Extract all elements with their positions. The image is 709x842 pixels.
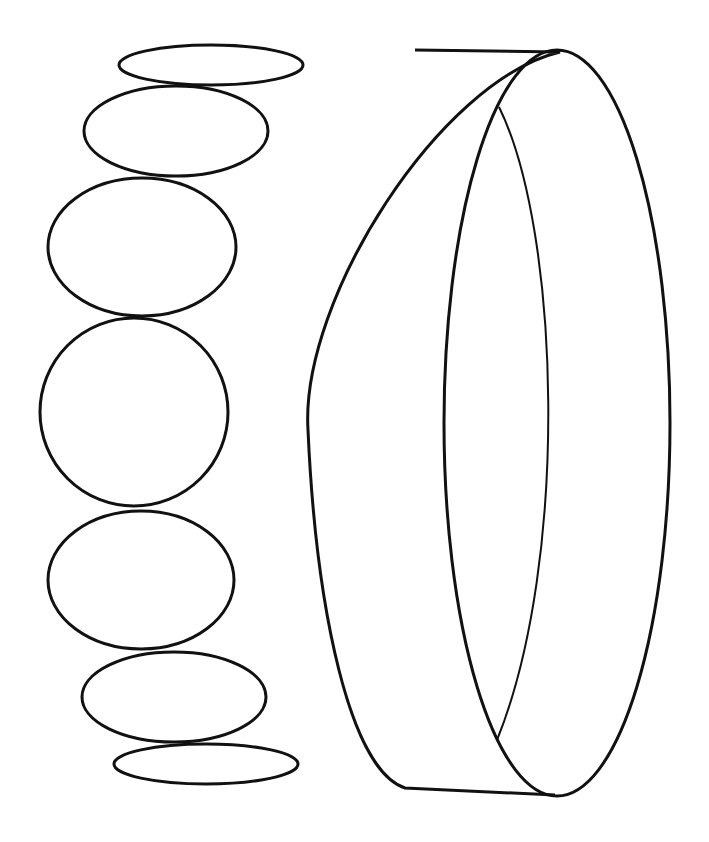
ellipse-4 [40, 318, 228, 506]
ellipse-3 [48, 178, 236, 316]
ellipse-6 [82, 652, 266, 742]
ellipse-2 [84, 86, 268, 176]
ring-cylinder [308, 50, 670, 796]
ellipse-1 [119, 45, 303, 85]
drawing-canvas [0, 0, 709, 842]
ring-front-ellipse [444, 50, 670, 796]
ellipse-7 [114, 744, 298, 784]
ring-inner-back-edge [497, 107, 548, 740]
stacked-ellipses [40, 45, 303, 784]
ellipse-5 [48, 511, 234, 649]
ring-outer-edge [308, 50, 560, 795]
